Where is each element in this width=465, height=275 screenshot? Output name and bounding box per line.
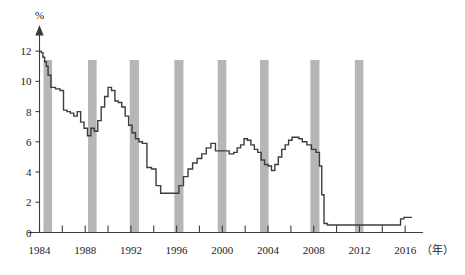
recession-bands-group [44, 60, 364, 233]
y-axis-unit-label: % [35, 9, 44, 21]
y-axis-tick-label: 4 [26, 166, 32, 178]
x-axis-year-caption: （年） [421, 243, 454, 256]
x-axis-tick-label: 1996 [166, 244, 189, 256]
recession-band [88, 60, 97, 233]
y-axis-labels-group: 024681012 [21, 45, 33, 238]
chart-container: 024681012 198419881992199620002004200820… [0, 0, 465, 275]
y-axis-arrow-icon [35, 25, 43, 36]
y-axis-tick-label: 0 [26, 227, 32, 239]
recession-band [260, 60, 269, 233]
y-axis-tick-label: 12 [21, 45, 32, 57]
x-axis-tick-label: 2004 [257, 244, 280, 256]
recession-band [355, 60, 364, 233]
y-axis-tick-label: 2 [26, 196, 32, 208]
x-axis-tick-label: 1992 [120, 244, 142, 256]
x-axis-tick-label: 2008 [303, 244, 326, 256]
x-axis-tick-label: 1984 [29, 244, 52, 256]
x-axis-tick-label: 2000 [211, 244, 234, 256]
y-axis-tick-label: 8 [26, 106, 32, 118]
x-axis-tick-label: 2012 [348, 244, 370, 256]
y-axis-tick-label: 6 [26, 136, 32, 148]
x-axis-labels-group: 198419881992199620002004200820122016 [29, 244, 417, 256]
line-chart: 024681012 198419881992199620002004200820… [0, 0, 465, 275]
y-axis-ticks-group [36, 51, 40, 232]
y-axis-tick-label: 10 [21, 75, 33, 87]
x-axis-tick-label: 2016 [394, 244, 417, 256]
x-axis-tick-label: 1988 [74, 244, 97, 256]
recession-band [130, 60, 139, 233]
recession-band [218, 60, 227, 233]
recession-band [174, 60, 183, 233]
